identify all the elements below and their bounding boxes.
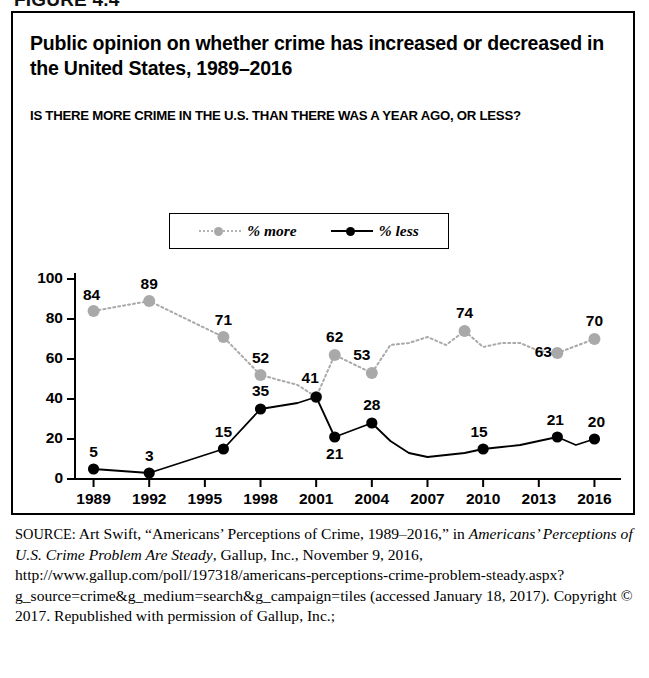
x-axis-tick-label: 2010: [453, 490, 513, 508]
legend-swatch-less-icon: [331, 225, 373, 237]
data-point-marker: [552, 431, 563, 442]
x-axis-tick-label: 1995: [175, 490, 235, 508]
data-point-marker: [143, 295, 155, 307]
x-axis-tick-label: 1998: [231, 490, 291, 508]
data-point-marker: [478, 443, 489, 454]
data-point-marker: [310, 391, 322, 403]
data-point-label: 5: [72, 443, 116, 461]
data-point-label: 53: [340, 346, 384, 364]
x-axis-tick-label: 2007: [397, 490, 457, 508]
data-point-marker: [589, 433, 600, 444]
chart-legend: % more % less: [169, 213, 449, 249]
data-point-marker: [255, 369, 267, 381]
data-point-label: 20: [574, 413, 618, 431]
data-point-label: 21: [313, 445, 357, 463]
data-point-marker: [255, 403, 266, 414]
data-point-marker: [366, 367, 378, 379]
x-axis-tick-label: 1989: [64, 490, 124, 508]
chart-title: Public opinion on whether crime has incr…: [30, 31, 618, 81]
legend-item-less[interactable]: % less: [331, 222, 419, 240]
data-point-marker: [366, 417, 377, 428]
data-point-marker: [144, 467, 155, 478]
y-axis-tick-label: 100: [19, 269, 63, 287]
data-point-marker: [88, 463, 99, 474]
plot-area: [13, 13, 637, 517]
x-axis-tick-label: 2001: [286, 490, 346, 508]
data-point-label: 15: [457, 423, 501, 441]
figure-panel: Public opinion on whether crime has incr…: [11, 11, 635, 515]
data-point-label: 3: [127, 447, 171, 465]
legend-label-more: % more: [247, 222, 297, 240]
data-point-marker: [311, 391, 322, 402]
data-point-label: 84: [70, 286, 114, 304]
x-axis-tick-label: 2013: [509, 490, 569, 508]
data-point-marker: [329, 431, 340, 442]
y-axis-tick-label: 60: [19, 349, 63, 367]
y-axis-tick-label: 0: [19, 469, 63, 487]
figure-label: FIGURE 4.4: [14, 0, 119, 11]
legend-item-more[interactable]: % more: [199, 222, 297, 240]
data-point-label: 28: [350, 396, 394, 414]
data-point-label: 15: [201, 423, 245, 441]
data-point-marker: [218, 443, 229, 454]
y-axis-tick-label: 80: [19, 309, 63, 327]
data-point-label: 41: [288, 369, 332, 387]
x-axis-tick-label: 2004: [342, 490, 402, 508]
data-point-label: 74: [443, 304, 487, 322]
data-point-marker: [217, 331, 229, 343]
data-point-label: 63: [521, 343, 565, 361]
x-axis-tick-label: 2016: [564, 490, 624, 508]
data-point-label: 71: [201, 311, 245, 329]
source-prefix: SOURCE:: [15, 526, 76, 542]
x-axis-tick-label: 1992: [119, 490, 179, 508]
data-point-marker: [459, 325, 471, 337]
y-axis-tick-label: 20: [19, 429, 63, 447]
data-point-label: 21: [533, 411, 577, 429]
data-point-label: 35: [239, 382, 283, 400]
data-point-marker: [588, 333, 600, 345]
source-line-1: Art Swift, “Americans’ Perceptions of Cr…: [76, 525, 469, 542]
data-point-label: 52: [239, 349, 283, 367]
source-note: SOURCE: Art Swift, “Americans’ Perceptio…: [15, 524, 635, 627]
y-axis-tick-label: 40: [19, 389, 63, 407]
legend-swatch-more-icon: [199, 225, 241, 237]
data-point-marker: [88, 305, 100, 317]
data-point-label: 62: [313, 328, 357, 346]
legend-label-less: % less: [379, 222, 419, 240]
data-point-label: 70: [572, 312, 616, 330]
data-point-label: 89: [127, 275, 171, 293]
chart-svg: [13, 13, 637, 517]
chart-subtitle: IS THERE MORE CRIME IN THE U.S. THAN THE…: [30, 108, 630, 123]
